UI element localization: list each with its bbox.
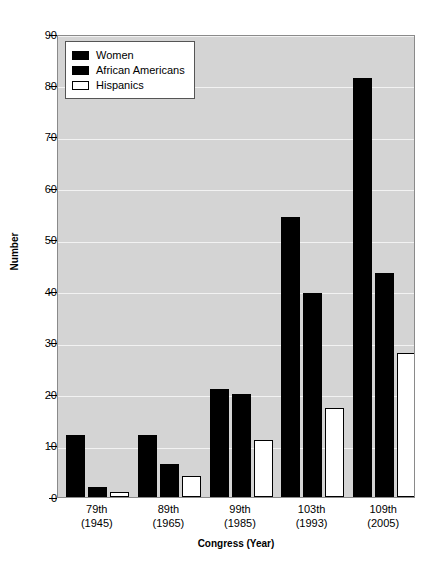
legend-label-hispanics: Hispanics: [96, 80, 144, 91]
bar: [138, 435, 157, 497]
bar: [110, 492, 129, 497]
y-tick-mark: [49, 240, 57, 241]
legend-label-african-americans: African Americans: [96, 65, 185, 76]
y-tick: 30: [0, 338, 57, 349]
y-tick-mark: [49, 189, 57, 190]
x-axis-title: Congress (Year): [57, 538, 415, 549]
y-tick-mark: [49, 395, 57, 396]
bar: [325, 408, 344, 497]
x-tick-label: 109th(2005): [340, 502, 427, 530]
y-tick-mark: [49, 498, 57, 499]
bar: [66, 435, 85, 497]
y-tick: 0: [0, 493, 57, 504]
y-tick-mark: [49, 446, 57, 447]
y-tick: 40: [0, 287, 57, 298]
bar: [254, 440, 273, 497]
bar-group: [210, 36, 273, 497]
legend-label-women: Women: [96, 50, 134, 61]
bar: [210, 389, 229, 497]
legend-item: African Americans: [72, 63, 185, 77]
bar: [182, 476, 201, 497]
legend-item: Women: [72, 48, 185, 62]
x-tick-year: (2005): [340, 516, 427, 530]
bar-group: [281, 36, 344, 497]
bar: [375, 273, 394, 497]
legend-swatch-african-americans: [72, 66, 89, 75]
bar: [88, 487, 107, 497]
y-tick: 20: [0, 390, 57, 401]
y-tick-mark: [49, 86, 57, 87]
bar-group: [353, 36, 415, 497]
y-tick-mark: [49, 292, 57, 293]
y-tick-mark: [49, 343, 57, 344]
chart-figure: Number 0102030405060708090 Women African…: [0, 0, 440, 573]
y-tick: 80: [0, 81, 57, 92]
legend-swatch-hispanics: [72, 81, 89, 90]
bar: [353, 78, 372, 497]
legend-item: Hispanics: [72, 78, 185, 92]
y-tick-mark: [49, 35, 57, 36]
y-tick: 10: [0, 441, 57, 452]
bar: [232, 394, 251, 497]
bar-group: [66, 36, 129, 497]
y-tick: 70: [0, 132, 57, 143]
x-tick-congress: 109th: [340, 502, 427, 516]
y-tick-mark: [49, 137, 57, 138]
plot-area: Women African Americans Hispanics: [57, 35, 415, 498]
y-tick: 90: [0, 30, 57, 41]
bar: [281, 217, 300, 497]
y-axis-title: Number: [9, 212, 20, 292]
y-tick: 50: [0, 235, 57, 246]
bar: [397, 353, 415, 497]
y-tick: 60: [0, 184, 57, 195]
chart-legend: Women African Americans Hispanics: [65, 41, 195, 99]
legend-swatch-women: [72, 51, 89, 60]
bar: [160, 464, 179, 497]
bar-group: [138, 36, 201, 497]
bar: [303, 293, 322, 497]
